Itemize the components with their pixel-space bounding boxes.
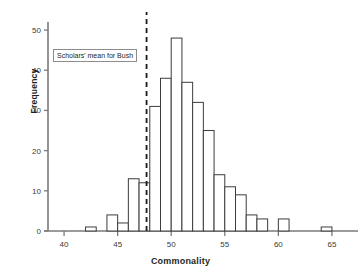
histogram-bar	[257, 219, 268, 231]
histogram-bar	[246, 215, 257, 231]
x-tick-label: 45	[113, 240, 122, 249]
y-axis-title: Frequency	[29, 51, 39, 131]
histogram-bar	[171, 38, 182, 231]
x-tick-label: 60	[274, 240, 283, 249]
histogram-bar	[236, 195, 247, 231]
histogram-bar	[118, 223, 129, 231]
histogram-bar	[182, 82, 193, 231]
y-tick-label: 0	[37, 227, 42, 236]
x-tick-label: 65	[327, 240, 336, 249]
histogram-bar	[86, 227, 97, 231]
histogram-bar	[193, 102, 204, 231]
histogram-bar	[225, 187, 236, 231]
histogram-chart: 01020304050404550556065 Frequency Common…	[0, 0, 361, 275]
histogram-bar	[203, 131, 214, 231]
histogram-bar	[161, 78, 172, 231]
histogram-bar	[214, 175, 225, 231]
y-tick-label: 10	[32, 187, 41, 196]
histogram-bar	[128, 179, 139, 231]
bars-group	[86, 38, 332, 231]
histogram-bar	[150, 106, 161, 231]
plot-area: 01020304050404550556065	[0, 0, 361, 275]
histogram-bar	[321, 227, 332, 231]
y-tick-label: 50	[32, 26, 41, 35]
histogram-bar	[107, 215, 118, 231]
x-tick-label: 40	[60, 240, 69, 249]
x-tick-label: 50	[167, 240, 176, 249]
histogram-bar	[139, 183, 150, 231]
x-axis-title: Commonality	[0, 256, 361, 266]
x-tick-label: 55	[220, 240, 229, 249]
y-tick-label: 20	[32, 147, 41, 156]
scholars-mean-annotation: Scholars' mean for Bush	[53, 49, 137, 62]
histogram-bar	[278, 219, 289, 231]
